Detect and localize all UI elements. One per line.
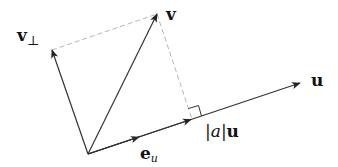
label-u: u [311,72,323,89]
label-a-u: |a|u [205,123,239,140]
label-a-u-u: u [227,121,239,141]
vector-diagram [0,0,338,167]
label-u-text: u [311,70,323,90]
label-e-u: eu [140,145,158,164]
v-vector [88,14,157,154]
label-v-text: v [166,4,176,24]
label-v: v [166,6,176,23]
label-e-u-sub: u [151,152,158,165]
v-perp-vector [52,50,88,154]
label-v-perp-base: v [17,25,27,45]
label-e-u-base: e [140,143,151,163]
dashed-v-to-projection [157,14,192,119]
label-a: a [211,121,221,141]
label-v-perp-sub: ⊥ [27,33,39,48]
label-v-perp: v⊥ [17,27,39,47]
